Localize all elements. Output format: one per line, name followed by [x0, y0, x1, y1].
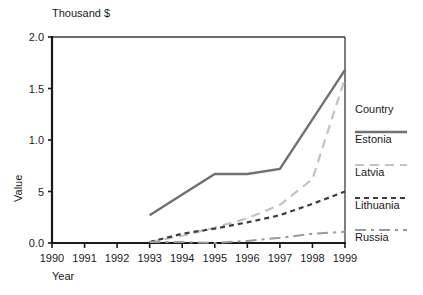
y-tick-label: 1.0 [29, 134, 44, 146]
x-tick-label: 1999 [333, 252, 357, 264]
series-line-russia [150, 232, 345, 243]
legend-label-lithuania: Lithuania [355, 199, 401, 211]
series-line-estonia [150, 70, 345, 215]
x-tick-label: 1990 [40, 252, 64, 264]
x-tick-label: 1996 [235, 252, 259, 264]
series-lines [150, 70, 345, 243]
y-axis-ticks: 0.051.01.52.0 [29, 31, 52, 249]
x-axis-title: Year [52, 270, 75, 282]
series-line-lithuania [150, 192, 345, 242]
y-axis-unit-label: Thousand $ [52, 7, 110, 19]
y-axis-title: Value [12, 175, 24, 202]
legend-label-estonia: Estonia [355, 133, 393, 145]
legend-title: Country [355, 103, 394, 115]
y-tick-label: 0.0 [29, 237, 44, 249]
y-tick-label: 1.5 [29, 83, 44, 95]
x-tick-label: 1992 [105, 252, 129, 264]
legend-label-latvia: Latvia [355, 166, 385, 178]
x-tick-label: 1997 [268, 252, 292, 264]
x-tick-label: 1993 [137, 252, 161, 264]
plot-frame [52, 37, 345, 243]
x-axis-ticks: 1990199119921993199419951996199719981999 [40, 243, 357, 264]
line-chart: Thousand $ 0.051.01.52.0 199019911992199… [0, 0, 423, 295]
series-line-latvia [150, 78, 345, 242]
x-tick-label: 1998 [300, 252, 324, 264]
x-tick-label: 1991 [72, 252, 96, 264]
y-tick-label: 2.0 [29, 31, 44, 43]
chart-legend: Country EstoniaLatviaLithuaniaRussia [355, 103, 407, 243]
legend-label-russia: Russia [355, 231, 390, 243]
x-tick-label: 1995 [203, 252, 227, 264]
x-tick-label: 1994 [170, 252, 194, 264]
y-tick-label: 5 [38, 186, 44, 198]
